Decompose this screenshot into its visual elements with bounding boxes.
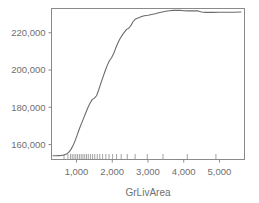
- x-axis-tick-labels: 1,0002,0003,0004,0005,000: [65, 166, 232, 177]
- y-tick-label: 180,000: [11, 102, 45, 113]
- partial-dependence-curve: [53, 10, 241, 156]
- x-tick-label: 2,000: [100, 166, 124, 177]
- x-axis-title: GrLivArea: [125, 187, 170, 198]
- partial-dependence-plot: 160,000180,000200,000220,000 1,0002,0003…: [0, 0, 259, 203]
- y-tick-label: 200,000: [11, 64, 45, 75]
- rug-marks: [64, 154, 216, 159]
- y-axis-tick-labels: 160,000180,000200,000220,000: [11, 27, 45, 150]
- x-tick-label: 5,000: [208, 166, 232, 177]
- chart-container: 160,000180,000200,000220,000 1,0002,0003…: [0, 0, 259, 203]
- x-tick-label: 4,000: [172, 166, 196, 177]
- y-tick-label: 220,000: [11, 27, 45, 38]
- y-tick-label: 160,000: [11, 139, 45, 150]
- x-tick-label: 3,000: [136, 166, 160, 177]
- x-tick-label: 1,000: [65, 166, 89, 177]
- plot-frame: [52, 9, 245, 160]
